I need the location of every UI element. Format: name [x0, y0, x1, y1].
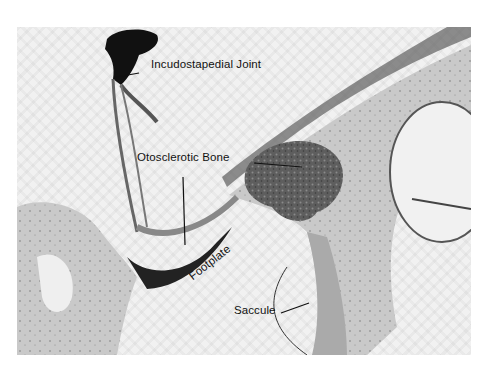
label-incudostapedial-joint: Incudostapedial Joint — [151, 58, 261, 70]
label-saccule: Saccule — [234, 304, 276, 316]
label-otosclerotic-bone: Otosclerotic Bone — [137, 151, 229, 163]
otosclerotic-pointer-2 — [183, 177, 185, 245]
saccule-pointer — [281, 303, 309, 313]
